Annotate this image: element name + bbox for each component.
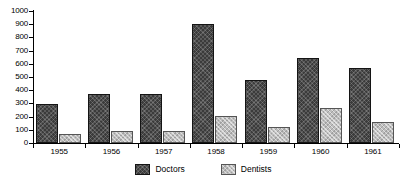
bar-doctors-1957 xyxy=(140,94,162,144)
legend-swatch-dentists xyxy=(221,164,236,175)
bar-doctors-1956 xyxy=(88,94,110,144)
bar-dentists-1958 xyxy=(215,116,237,143)
y-tick-label: 900 xyxy=(0,20,28,28)
y-tick-label: 600 xyxy=(0,60,28,68)
bar-group xyxy=(294,11,346,143)
x-tick-label-1958: 1958 xyxy=(190,147,242,156)
legend-item-dentists: Dentists xyxy=(221,164,272,175)
legend-item-doctors: Doctors xyxy=(135,164,184,175)
bar-dentists-1957 xyxy=(163,131,185,143)
x-tick-label-1959: 1959 xyxy=(242,147,294,156)
x-tick-label-1957: 1957 xyxy=(138,147,190,156)
x-tick xyxy=(399,144,400,148)
y-tick-label: 200 xyxy=(0,113,28,121)
bar-doctors-1955 xyxy=(36,104,58,143)
bar-dentists-1955 xyxy=(59,134,81,143)
y-tick-label: 400 xyxy=(0,86,28,94)
x-tick-label-1960: 1960 xyxy=(294,147,346,156)
y-tick-label: 700 xyxy=(0,47,28,55)
bar-group xyxy=(85,11,137,143)
y-tick-label: 1000 xyxy=(0,7,28,15)
x-tick-label-1961: 1961 xyxy=(347,147,399,156)
y-tick-label: 300 xyxy=(0,99,28,107)
bar-dentists-1959 xyxy=(268,127,290,143)
legend-swatch-doctors xyxy=(135,164,150,175)
legend-label-dentists: Dentists xyxy=(241,165,272,174)
bar-group xyxy=(33,11,85,143)
bar-group xyxy=(242,11,294,143)
chart-legend: Doctors Dentists xyxy=(0,164,407,175)
y-tick-label: 0 xyxy=(0,139,28,147)
x-tick-label-1956: 1956 xyxy=(85,147,137,156)
x-axis-line xyxy=(33,143,399,144)
bar-doctors-1960 xyxy=(297,58,319,143)
bar-doctors-1961 xyxy=(349,68,371,143)
y-tick-label: 500 xyxy=(0,73,28,81)
y-tick-label: 100 xyxy=(0,126,28,134)
bar-doctors-1959 xyxy=(245,80,267,143)
x-tick-label-1955: 1955 xyxy=(33,147,85,156)
bar-dentists-1956 xyxy=(111,131,133,143)
bar-group xyxy=(190,11,242,143)
bar-chart: 01002003004005006007008009001000 1955195… xyxy=(0,0,407,190)
legend-label-doctors: Doctors xyxy=(155,165,184,174)
bar-dentists-1961 xyxy=(372,122,394,143)
plot-area xyxy=(33,11,399,143)
bar-group xyxy=(347,11,399,143)
bar-dentists-1960 xyxy=(320,108,342,143)
bar-doctors-1958 xyxy=(192,24,214,143)
bar-group xyxy=(138,11,190,143)
y-tick-label: 800 xyxy=(0,33,28,41)
